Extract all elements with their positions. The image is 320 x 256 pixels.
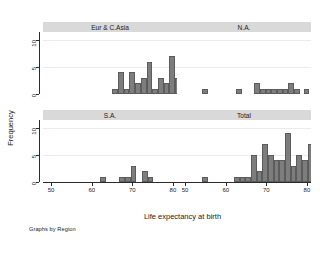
x-tick bbox=[266, 183, 267, 186]
plot-area bbox=[43, 32, 177, 94]
y-axis-line bbox=[39, 120, 40, 182]
plot-area bbox=[177, 32, 311, 94]
histogram-bar bbox=[202, 89, 208, 94]
histogram-bar bbox=[294, 89, 300, 94]
x-tick-label: 60 bbox=[222, 187, 229, 193]
x-tick-label: 50 bbox=[182, 187, 189, 193]
plot-area bbox=[43, 120, 177, 182]
y-axis-line bbox=[39, 32, 40, 94]
histogram-bar bbox=[308, 144, 311, 182]
x-tick-label: 50 bbox=[48, 187, 55, 193]
x-tick-label: 70 bbox=[263, 187, 270, 193]
bars-layer bbox=[177, 32, 311, 94]
x-axis-line bbox=[43, 182, 177, 183]
panel-title: Eur & C.Asia bbox=[43, 22, 177, 32]
x-tick-label: 80 bbox=[170, 187, 177, 193]
x-tick-label: 70 bbox=[129, 187, 136, 193]
histogram-bar bbox=[131, 166, 137, 182]
bars-layer bbox=[43, 32, 177, 94]
plot-area bbox=[177, 120, 311, 182]
figure-note: Graphs by Region bbox=[29, 226, 76, 232]
x-tick bbox=[92, 183, 93, 186]
y-tick-label: 0 bbox=[31, 94, 37, 97]
figure: Frequency Life expectancy at birth Graph… bbox=[0, 0, 320, 256]
bars-layer bbox=[43, 120, 177, 182]
panel-title: Total bbox=[177, 110, 311, 120]
y-tick-label: 5 bbox=[31, 155, 37, 158]
panel-title: S.A. bbox=[43, 110, 177, 120]
x-tick-label: 80 bbox=[304, 187, 311, 193]
panel-total: Total bbox=[177, 110, 311, 182]
x-tick bbox=[132, 183, 133, 186]
y-tick-label: 10 bbox=[31, 40, 37, 47]
y-tick-label: 5 bbox=[31, 67, 37, 70]
panel-eur-c-asia: Eur & C.Asia bbox=[43, 22, 177, 94]
y-axis-title: Frequency bbox=[6, 110, 15, 145]
x-tick bbox=[51, 183, 52, 186]
bars-layer bbox=[177, 120, 311, 182]
y-tick-label: 10 bbox=[31, 128, 37, 135]
x-axis-line bbox=[177, 182, 311, 183]
histogram-bar bbox=[304, 89, 310, 94]
x-tick bbox=[185, 183, 186, 186]
panel-s-a: S.A. bbox=[43, 110, 177, 182]
x-tick bbox=[173, 183, 174, 186]
panel-n-a: N.A. bbox=[177, 22, 311, 94]
x-tick bbox=[226, 183, 227, 186]
panel-title: N.A. bbox=[177, 22, 311, 32]
x-tick-label: 60 bbox=[88, 187, 95, 193]
y-tick-label: 0 bbox=[31, 182, 37, 185]
x-axis-title: Life expectancy at birth bbox=[50, 212, 315, 221]
x-tick bbox=[307, 183, 308, 186]
histogram-bar bbox=[236, 89, 242, 94]
